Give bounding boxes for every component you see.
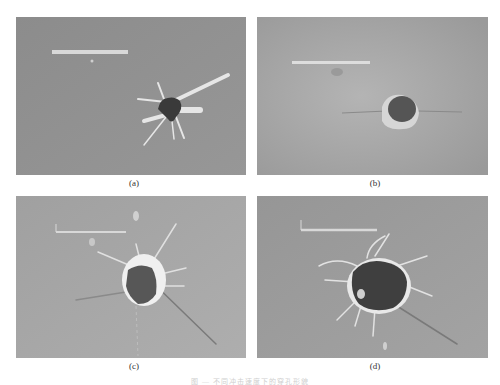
figure-panel-c — [16, 196, 246, 358]
panel-label-b: (b) — [355, 178, 395, 188]
figure-panel-a — [16, 17, 246, 175]
impact-image-b — [257, 17, 488, 175]
figure-panel-b — [257, 17, 488, 175]
figure-caption: 图 — 不同冲击速度下的穿孔形貌 — [150, 376, 350, 385]
impact-image-c — [16, 196, 246, 358]
panel-label-c: (c) — [114, 361, 154, 371]
scale-bar — [292, 61, 370, 64]
hole-b — [388, 96, 416, 122]
figure-panel-d — [257, 196, 488, 358]
scale-bar — [52, 50, 128, 54]
panel-label-d: (d) — [355, 361, 395, 371]
impact-image-d — [257, 196, 488, 358]
impact-image-a — [16, 17, 246, 175]
hole-d — [352, 261, 407, 310]
panel-label-a: (a) — [114, 178, 154, 188]
